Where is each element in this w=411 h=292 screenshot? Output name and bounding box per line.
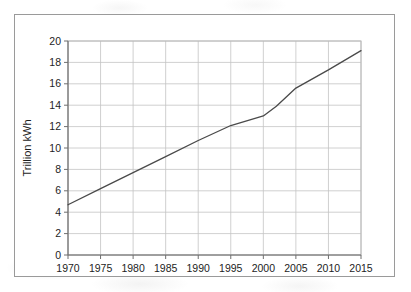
y-tick-label: 10 xyxy=(49,142,61,154)
y-tick-label: 2 xyxy=(55,227,61,239)
y-tick-label: 4 xyxy=(55,206,61,218)
y-tick-label: 8 xyxy=(55,163,61,175)
x-axis-ticks: 1970197519801985199019952000200520102015 xyxy=(56,255,373,274)
x-tick-label: 2010 xyxy=(317,262,341,274)
x-tick-label: 2005 xyxy=(284,262,308,274)
x-tick-label: 1970 xyxy=(56,262,80,274)
x-tick-label: 2015 xyxy=(349,262,373,274)
x-tick-label: 1985 xyxy=(154,262,178,274)
line-chart: 02468101214161820 1970197519801985199019… xyxy=(15,15,394,276)
x-tick-label: 1980 xyxy=(121,262,145,274)
chart-figure-frame: 02468101214161820 1970197519801985199019… xyxy=(14,14,395,277)
x-tick-label: 1995 xyxy=(219,262,243,274)
y-axis-title: Trillion kWh xyxy=(21,119,33,176)
x-tick-label: 2000 xyxy=(252,262,276,274)
x-tick-label: 1990 xyxy=(187,262,211,274)
y-tick-label: 12 xyxy=(49,120,61,132)
y-tick-label: 6 xyxy=(55,184,61,196)
y-tick-label: 16 xyxy=(49,77,61,89)
y-tick-label: 20 xyxy=(49,35,61,47)
y-tick-label: 18 xyxy=(49,56,61,68)
x-tick-label: 1975 xyxy=(89,262,113,274)
y-tick-label: 14 xyxy=(49,99,61,111)
y-tick-label: 0 xyxy=(55,249,61,261)
y-axis-ticks: 02468101214161820 xyxy=(49,35,68,261)
